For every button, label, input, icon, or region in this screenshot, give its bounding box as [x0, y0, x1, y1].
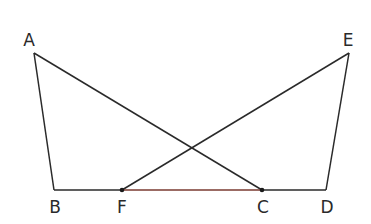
label-a: A: [23, 30, 35, 50]
label-f: F: [117, 197, 127, 217]
segment-ac: [34, 53, 262, 190]
label-d: D: [320, 197, 333, 217]
label-b: B: [49, 197, 61, 217]
segment-ef: [122, 53, 349, 190]
geometry-diagram: A B F C D E: [0, 0, 371, 224]
point-c-dot: [260, 188, 265, 193]
point-f-dot: [120, 188, 125, 193]
label-e: E: [343, 30, 354, 50]
label-c: C: [257, 197, 269, 217]
segment-ab: [34, 53, 54, 190]
segment-ed: [326, 53, 349, 190]
